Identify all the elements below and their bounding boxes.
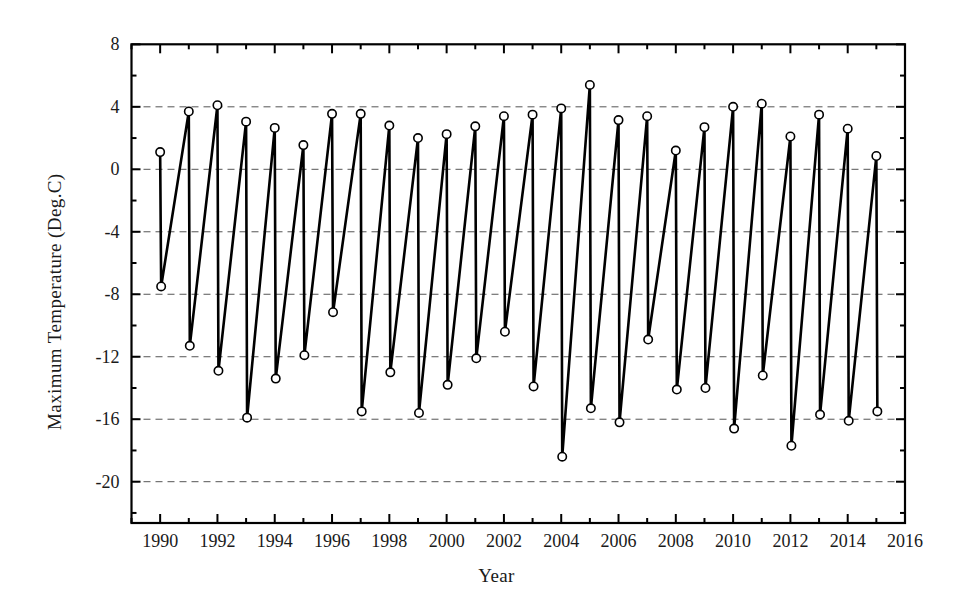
svg-text:2014: 2014 <box>830 531 866 551</box>
svg-text:2004: 2004 <box>543 531 579 551</box>
svg-text:4: 4 <box>111 97 120 117</box>
svg-text:2012: 2012 <box>772 531 808 551</box>
chart-container: 1990199219941996199820002002200420062008… <box>0 0 968 608</box>
svg-text:-4: -4 <box>105 222 120 242</box>
y-axis-tick-labels: 840-4-8-12-16-20 <box>96 34 120 491</box>
y-axis-title: Maximum Temperature (Deg.C) <box>44 173 66 430</box>
svg-text:-8: -8 <box>105 284 120 304</box>
chart-plot-svg: 1990199219941996199820002002200420062008… <box>0 0 968 608</box>
data-point-markers <box>156 81 882 461</box>
svg-text:-12: -12 <box>96 347 120 367</box>
svg-text:1994: 1994 <box>257 531 293 551</box>
svg-text:8: 8 <box>111 34 120 54</box>
svg-text:-16: -16 <box>96 409 120 429</box>
svg-text:2010: 2010 <box>715 531 751 551</box>
svg-text:0: 0 <box>111 159 120 179</box>
svg-text:1996: 1996 <box>314 531 350 551</box>
x-axis-title-wrap: Year <box>0 565 968 587</box>
svg-text:2008: 2008 <box>658 531 694 551</box>
x-axis-title: Year <box>478 565 515 587</box>
svg-text:2016: 2016 <box>887 531 923 551</box>
data-series-line <box>160 85 877 457</box>
x-axis-tick-labels: 1990199219941996199820002002200420062008… <box>142 531 923 551</box>
svg-text:2006: 2006 <box>601 531 637 551</box>
svg-text:1992: 1992 <box>199 531 235 551</box>
svg-text:2002: 2002 <box>486 531 522 551</box>
svg-text:1998: 1998 <box>371 531 407 551</box>
svg-text:-20: -20 <box>96 472 120 492</box>
svg-text:2000: 2000 <box>429 531 465 551</box>
svg-text:1990: 1990 <box>142 531 178 551</box>
